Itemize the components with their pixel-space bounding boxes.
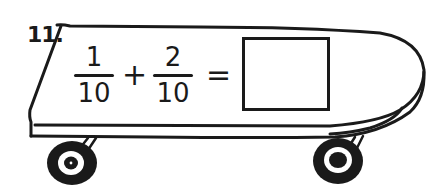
problem-number: 11. [27,24,63,46]
fraction-one-tenth: 1 10 [74,42,114,108]
fraction-b-bar [153,74,193,77]
plus-sign: + [122,60,147,90]
fraction-a-denominator: 10 [74,78,114,108]
answer-box[interactable] [242,37,330,111]
fraction-b-numerator: 2 [153,42,193,72]
fraction-b-denominator: 10 [153,78,193,108]
fraction-a-bar [74,74,114,77]
skateboard-illustration [0,0,432,185]
equals-sign: = [206,60,231,90]
left-wheel [47,141,97,185]
right-wheel [313,138,363,184]
fraction-two-tenths: 2 10 [153,42,193,108]
fraction-a-numerator: 1 [74,42,114,72]
